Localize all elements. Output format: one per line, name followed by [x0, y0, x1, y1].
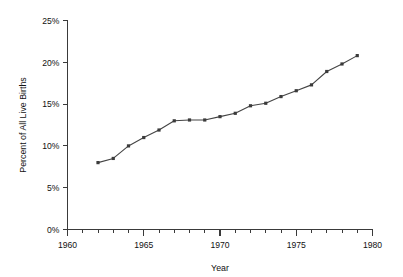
data-point-marker — [203, 118, 206, 121]
data-point-marker — [279, 95, 282, 98]
data-point-marker — [310, 83, 313, 86]
chart-figure: 0%5%10%15%20%25%19601965197019751980 Yea… — [0, 0, 403, 277]
line-chart: 0%5%10%15%20%25%19601965197019751980 Yea… — [0, 0, 403, 277]
y-tick-label: 15% — [42, 99, 60, 109]
data-point-marker — [340, 62, 343, 65]
series-line — [98, 56, 357, 163]
data-point-marker — [142, 136, 145, 139]
data-series — [96, 54, 358, 164]
data-point-marker — [249, 104, 252, 107]
data-point-marker — [157, 128, 160, 131]
data-point-marker — [218, 115, 221, 118]
data-point-marker — [173, 119, 176, 122]
y-axis-title: Percent of All Live Births — [18, 77, 28, 173]
data-point-marker — [295, 89, 298, 92]
data-point-marker — [188, 118, 191, 121]
data-point-marker — [356, 54, 359, 57]
x-tick-label: 1980 — [363, 240, 382, 250]
data-point-marker — [325, 70, 328, 73]
data-point-marker — [127, 144, 130, 147]
x-axis-ticks — [68, 230, 373, 236]
data-point-marker — [234, 112, 237, 115]
chart-axes — [68, 21, 373, 230]
x-tick-label: 1965 — [134, 240, 153, 250]
y-tick-label: 0% — [47, 225, 60, 235]
y-tick-label: 10% — [42, 141, 60, 151]
y-tick-label: 5% — [47, 183, 60, 193]
y-axis-ticks — [63, 21, 68, 230]
y-tick-label: 20% — [42, 58, 60, 68]
x-axis-title: Year — [211, 263, 229, 273]
x-tick-label: 1970 — [210, 240, 229, 250]
data-point-marker — [112, 157, 115, 160]
data-point-marker — [264, 102, 267, 105]
axis-tick-labels: 0%5%10%15%20%25%19601965197019751980 — [42, 16, 382, 250]
data-point-marker — [96, 161, 99, 164]
y-tick-label: 25% — [42, 16, 60, 26]
x-tick-label: 1960 — [58, 240, 77, 250]
x-tick-label: 1975 — [287, 240, 306, 250]
